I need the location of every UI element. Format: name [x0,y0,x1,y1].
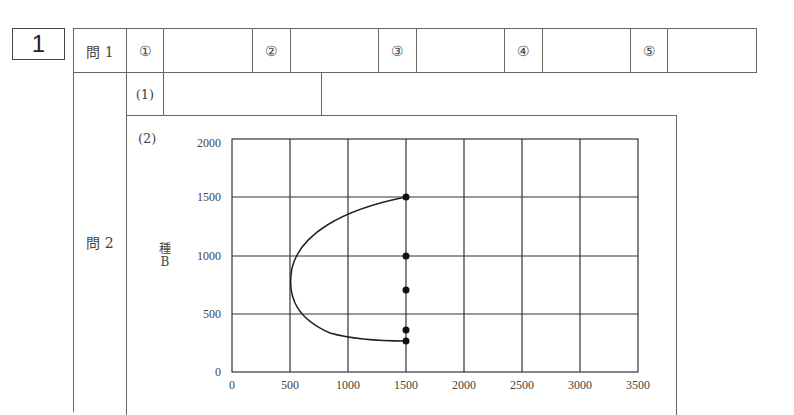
chart-grid [232,139,638,372]
svg-text:2000: 2000 [197,136,221,150]
svg-text:1000: 1000 [197,249,221,263]
svg-text:2000: 2000 [452,378,476,392]
svg-text:500: 500 [203,307,221,321]
svg-text:500: 500 [281,378,299,392]
svg-text:3000: 3000 [568,378,592,392]
svg-text:2500: 2500 [510,378,534,392]
svg-text:0: 0 [229,378,235,392]
x-axis-ticks: 0 500 1000 1500 2000 2500 3000 3500 [229,378,650,392]
svg-text:1500: 1500 [394,378,418,392]
svg-text:0: 0 [215,365,221,379]
svg-text:1000: 1000 [336,378,360,392]
y-axis-ticks: 2000 1500 1000 500 0 [197,136,221,379]
svg-text:1500: 1500 [197,190,221,204]
svg-text:3500: 3500 [626,378,650,392]
